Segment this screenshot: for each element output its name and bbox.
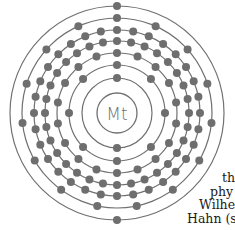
electron xyxy=(65,109,73,117)
electron xyxy=(207,119,215,127)
text-fragment: Hahn (se xyxy=(187,213,235,226)
electron xyxy=(79,143,87,151)
electron xyxy=(180,81,188,89)
text-fragment: Wilhe xyxy=(199,199,235,212)
electron xyxy=(32,93,40,101)
electron xyxy=(147,75,155,83)
electron xyxy=(113,2,121,10)
electron xyxy=(93,202,101,210)
electron xyxy=(152,155,160,163)
electron xyxy=(113,169,121,177)
electron xyxy=(169,186,177,194)
electron xyxy=(164,58,172,66)
electron xyxy=(62,58,70,66)
electron xyxy=(97,190,105,198)
electron xyxy=(99,38,107,46)
electron xyxy=(113,181,121,189)
bohr-diagram: Mt xyxy=(0,0,235,230)
electron xyxy=(129,28,137,36)
electron xyxy=(31,157,39,165)
electron xyxy=(46,81,54,89)
electron xyxy=(164,160,172,168)
electron xyxy=(46,137,54,145)
electron xyxy=(180,137,188,145)
electron xyxy=(172,119,180,127)
electron xyxy=(145,186,153,194)
electron xyxy=(165,79,173,87)
electron xyxy=(73,169,81,177)
electron xyxy=(19,119,27,127)
electron xyxy=(57,186,65,194)
electron xyxy=(42,45,50,53)
electron xyxy=(113,74,121,82)
text-fragment: th xyxy=(222,172,235,185)
electron xyxy=(173,69,181,77)
electron xyxy=(173,149,181,157)
electron xyxy=(79,75,87,83)
electron xyxy=(127,180,135,188)
electron xyxy=(41,109,49,117)
electron xyxy=(74,22,82,30)
electron xyxy=(32,125,40,133)
electron xyxy=(184,45,192,53)
electron xyxy=(53,149,61,157)
electron xyxy=(152,63,160,71)
electron xyxy=(61,139,69,147)
electron xyxy=(74,63,82,71)
electron xyxy=(74,155,82,163)
electron xyxy=(172,99,180,107)
electron xyxy=(172,168,180,176)
electron xyxy=(134,165,142,173)
electron xyxy=(159,40,167,48)
electron xyxy=(113,49,121,57)
electron xyxy=(54,99,62,107)
electron xyxy=(133,202,141,210)
electron xyxy=(184,123,192,131)
electron xyxy=(44,63,52,71)
electron xyxy=(165,139,173,147)
electron xyxy=(182,155,190,163)
electron xyxy=(159,178,167,186)
electron xyxy=(53,69,61,77)
electron xyxy=(152,22,160,30)
electron xyxy=(85,176,93,184)
electron xyxy=(36,77,44,85)
electron xyxy=(99,180,107,188)
electron xyxy=(113,144,121,152)
electron xyxy=(42,95,50,103)
electron xyxy=(54,119,62,127)
electron xyxy=(97,28,105,36)
electron xyxy=(129,190,137,198)
electron xyxy=(190,141,198,149)
electron xyxy=(113,216,121,224)
electron xyxy=(184,95,192,103)
electron xyxy=(81,32,89,40)
electron xyxy=(92,53,100,61)
electron xyxy=(195,157,203,165)
element-symbol: Mt xyxy=(106,104,127,124)
electron xyxy=(182,63,190,71)
electron xyxy=(92,165,100,173)
electron xyxy=(161,109,169,117)
electron xyxy=(113,26,121,34)
electron xyxy=(61,79,69,87)
electron xyxy=(141,176,149,184)
electron xyxy=(153,49,161,57)
electron xyxy=(145,32,153,40)
electron xyxy=(185,109,193,117)
electron xyxy=(194,93,202,101)
electron xyxy=(113,157,121,165)
electron xyxy=(203,80,211,88)
electron xyxy=(67,178,75,186)
electron xyxy=(147,143,155,151)
electron xyxy=(127,38,135,46)
electron xyxy=(36,141,44,149)
electron xyxy=(54,50,62,58)
electron xyxy=(113,37,121,45)
electron xyxy=(30,109,38,117)
electron xyxy=(113,192,121,200)
electron xyxy=(73,49,81,57)
electron xyxy=(42,123,50,131)
electron xyxy=(190,77,198,85)
electron xyxy=(153,169,161,177)
